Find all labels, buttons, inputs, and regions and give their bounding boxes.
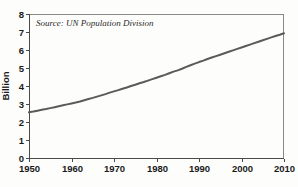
- plot-area-border: [30, 15, 284, 159]
- world-population-line: [29, 33, 284, 112]
- y-tick-label: 3: [19, 99, 24, 110]
- source-annotation: Source: UN Population Division: [36, 18, 154, 28]
- x-tick-label: 1990: [189, 163, 210, 174]
- population-line-chart: 012345678 1950196019701980199020002010 B…: [0, 0, 298, 187]
- y-tick-label: 2: [19, 117, 24, 128]
- y-axis: 012345678: [19, 9, 30, 164]
- x-tick-label: 1970: [104, 163, 125, 174]
- y-tick-label: 4: [19, 81, 25, 92]
- y-tick-label: 7: [19, 27, 24, 38]
- y-tick-label: 6: [19, 45, 24, 56]
- y-tick-label: 8: [19, 9, 24, 20]
- y-tick-label: 5: [19, 63, 25, 74]
- series-group: [29, 33, 284, 112]
- x-tick-label: 1950: [19, 163, 40, 174]
- plot-frame: [30, 15, 284, 159]
- x-axis: 1950196019701980199020002010: [19, 159, 295, 175]
- chart-canvas: 012345678 1950196019701980199020002010 B…: [0, 0, 298, 187]
- y-tick-label: 1: [19, 135, 25, 146]
- x-tick-label: 2000: [232, 163, 253, 174]
- x-tick-label: 1960: [62, 163, 83, 174]
- x-tick-label: 1980: [147, 163, 168, 174]
- x-tick-label: 2010: [274, 163, 295, 174]
- y-axis-title: Billion: [0, 71, 11, 100]
